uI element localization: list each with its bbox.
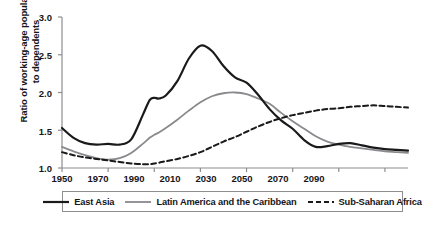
legend-label-sub-saharan-africa: Sub-Saharan Africa <box>339 197 422 207</box>
legend-swatch-solid-gray-icon <box>125 198 151 206</box>
x-tick-label-1950: 1950 <box>42 173 82 184</box>
x-axis-ticks <box>62 168 385 172</box>
legend-label-latin-america: Latin America and the Caribbean <box>156 197 296 207</box>
x-tick-label-2090: 2090 <box>294 173 334 184</box>
chart-figure: Ratio of working-age population to depen… <box>0 0 424 226</box>
y-tick-label-1.5: 1.5 <box>30 126 52 137</box>
series-line-latin-america-and-the-caribbean <box>62 92 408 159</box>
x-tick-label-2050: 2050 <box>222 173 262 184</box>
series-line-sub-saharan-africa <box>62 105 408 164</box>
y-tick-label-3.0: 3.0 <box>30 12 52 23</box>
y-tick-label-2.0: 2.0 <box>30 88 52 99</box>
legend-item-east-asia[interactable]: East Asia <box>43 197 114 207</box>
x-tick-label-1970: 1970 <box>78 173 118 184</box>
x-tick-label-1990: 1990 <box>114 173 154 184</box>
legend-swatch-dashed-black-icon <box>308 198 334 206</box>
data-series-group <box>62 45 408 164</box>
chart-legend: East Asia Latin America and the Caribbea… <box>62 191 403 212</box>
legend-swatch-solid-black-icon <box>43 198 69 206</box>
legend-item-latin-america[interactable]: Latin America and the Caribbean <box>125 197 296 207</box>
y-tick-label-2.5: 2.5 <box>30 50 52 61</box>
legend-label-east-asia: East Asia <box>74 197 114 207</box>
legend-item-sub-saharan-africa[interactable]: Sub-Saharan Africa <box>308 197 422 207</box>
series-line-east-asia <box>62 45 408 150</box>
x-tick-label-2030: 2030 <box>186 173 226 184</box>
x-tick-label-2010: 2010 <box>150 173 190 184</box>
x-tick-label-2070: 2070 <box>258 173 298 184</box>
